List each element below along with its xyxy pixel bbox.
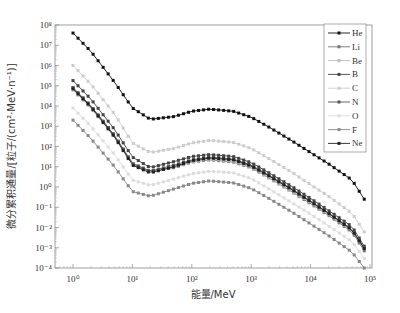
y-tick-label: 10⁻¹ <box>35 202 52 212</box>
legend-label: Be <box>352 56 362 66</box>
legend-label: He <box>352 28 363 38</box>
legend: HeLiBeBCNOFNe <box>324 24 366 152</box>
legend-label: O <box>352 111 359 121</box>
y-tick-label: 10⁰ <box>39 182 52 192</box>
series-o <box>72 106 366 259</box>
y-tick-label: 10⁴ <box>40 101 52 111</box>
y-tick-label: 10⁶ <box>40 61 52 71</box>
y-tick-label: 10⁸ <box>40 20 52 30</box>
x-axis: 10⁰10¹10²10³10⁴10⁵ <box>55 264 376 284</box>
chart: 10⁻⁴10⁻³10⁻²10⁻¹10⁰10¹10²10³10⁴10⁵10⁶10⁷… <box>0 0 400 313</box>
y-axis-title: 微分累积通量/[粒子/(cm²·MeV·n⁻¹)] <box>5 63 17 228</box>
series-be <box>72 89 366 250</box>
x-tick-label: 10³ <box>245 274 257 284</box>
y-tick-label: 10¹ <box>40 162 52 172</box>
x-axis-title: 能量/MeV <box>191 288 236 300</box>
series-b <box>72 79 366 248</box>
legend-label: B <box>352 69 358 79</box>
x-tick-label: 10⁵ <box>364 274 376 284</box>
legend-label: N <box>352 97 359 107</box>
y-tick-label: 10⁻³ <box>35 243 52 253</box>
legend-label: Li <box>352 42 360 52</box>
x-tick-label: 10¹ <box>127 274 139 284</box>
legend-label: Ne <box>352 138 363 148</box>
data-series <box>72 32 366 270</box>
y-tick-label: 10⁷ <box>40 40 52 50</box>
y-tick-label: 10² <box>40 142 52 152</box>
y-tick-label: 10³ <box>40 121 52 131</box>
x-tick-label: 10² <box>186 274 198 284</box>
x-tick-label: 10⁴ <box>305 274 317 284</box>
y-tick-label: 10⁻² <box>35 223 52 233</box>
y-tick-label: 10⁵ <box>40 81 52 91</box>
y-tick-label: 10⁻⁴ <box>35 263 52 273</box>
x-tick-label: 10⁰ <box>67 274 80 284</box>
legend-label: F <box>352 125 357 135</box>
legend-label: C <box>352 83 358 93</box>
